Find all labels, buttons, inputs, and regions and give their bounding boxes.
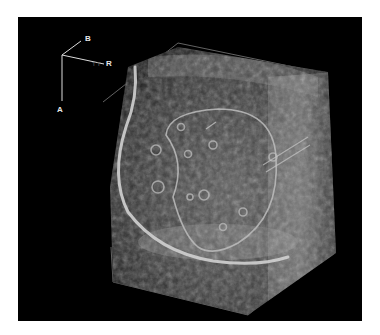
axis-label-r-prefix: T T bbox=[92, 61, 101, 67]
axis-label-b: B bbox=[85, 34, 91, 43]
axis-label-r: R bbox=[106, 59, 112, 68]
volume-render-viewport: B T T R A bbox=[18, 17, 362, 321]
volume-render bbox=[18, 17, 362, 321]
orientation-axes bbox=[62, 41, 104, 101]
axis-label-a: A bbox=[57, 105, 63, 114]
